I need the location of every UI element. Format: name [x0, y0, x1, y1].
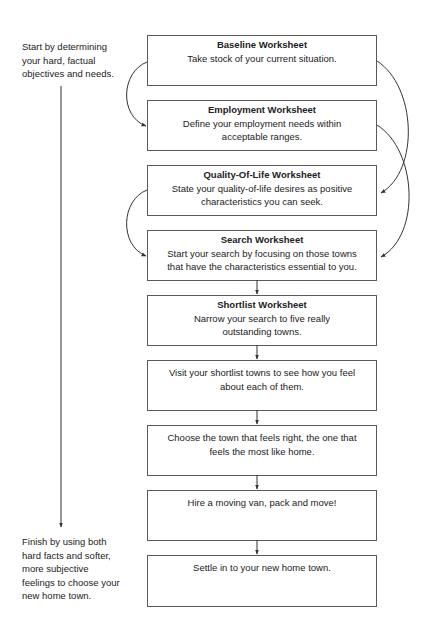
curved-arrow-employment-to-search	[377, 125, 409, 257]
step-text: Start your search by focusing on those t…	[148, 247, 376, 274]
step-choose-town: Choose the town that feels right, the on…	[147, 425, 377, 476]
finish-note: Finish by using both hard facts and soft…	[22, 535, 140, 603]
step-text: Narrow your search to five really outsta…	[148, 312, 376, 339]
start-note: Start by determining your hard, factual …	[22, 40, 140, 81]
step-title: Baseline Worksheet	[148, 38, 376, 52]
step-text: Take stock of your current situation.	[148, 52, 376, 66]
step-text: Hire a moving van, pack and move!	[148, 496, 376, 510]
step-title: Search Worksheet	[148, 233, 376, 247]
step-settle-in: Settle in to your new home town.	[147, 555, 377, 607]
curved-arrow-quality-to-search	[127, 190, 147, 256]
step-title: Employment Worksheet	[148, 103, 376, 117]
step-text: Settle in to your new home town.	[148, 561, 376, 575]
step-text: Visit your shortlist towns to see how yo…	[148, 366, 376, 393]
step-text: Define your employment needs within acce…	[148, 117, 376, 144]
step-quality-of-life-worksheet: Quality-Of-Life Worksheet State your qua…	[147, 165, 377, 216]
step-visit-towns: Visit your shortlist towns to see how yo…	[147, 360, 377, 411]
step-baseline-worksheet: Baseline Worksheet Take stock of your cu…	[147, 35, 377, 86]
step-title: Shortlist Worksheet	[148, 298, 376, 312]
step-shortlist-worksheet: Shortlist Worksheet Narrow your search t…	[147, 295, 377, 346]
step-employment-worksheet: Employment Worksheet Define your employm…	[147, 100, 377, 151]
curved-arrow-baseline-to-quality	[377, 61, 408, 193]
step-search-worksheet: Search Worksheet Start your search by fo…	[147, 230, 377, 281]
step-text: Choose the town that feels right, the on…	[148, 431, 376, 458]
step-text: State your quality-of-life desires as po…	[148, 182, 376, 209]
step-title: Quality-Of-Life Worksheet	[148, 168, 376, 182]
step-move: Hire a moving van, pack and move!	[147, 490, 377, 541]
